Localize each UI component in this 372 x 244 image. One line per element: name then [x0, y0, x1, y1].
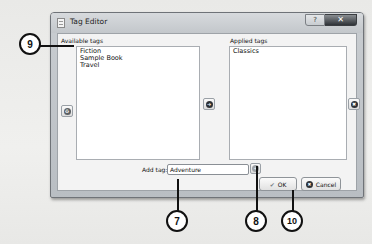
right-arrow-icon: ➔: [206, 101, 213, 108]
delete-tag-button[interactable]: ♻: [61, 105, 73, 117]
ok-label: OK: [278, 181, 287, 188]
callout-8-leader: [256, 166, 258, 213]
cancel-icon: ✖: [306, 181, 313, 188]
add-tag-label: Add tag:: [142, 166, 167, 173]
title-bar[interactable]: Tag Editor ? ✕: [51, 13, 363, 33]
recycle-icon: ♻: [64, 108, 71, 115]
applied-tags-label: Applied tags: [230, 37, 267, 44]
callout-7-leader: [177, 179, 179, 213]
add-tag-input[interactable]: Adventure: [167, 164, 249, 175]
callout-7: 7: [166, 210, 188, 232]
window-icon: [57, 18, 65, 28]
available-tags-list[interactable]: Fiction Sample Book Travel: [76, 46, 200, 160]
window-title: Tag Editor: [70, 17, 107, 26]
callout-9: 9: [19, 33, 41, 55]
close-button[interactable]: ✕: [325, 14, 357, 26]
callout-10: 10: [281, 210, 303, 232]
available-tags-label: Available tags: [61, 37, 103, 44]
list-item[interactable]: Travel: [77, 62, 199, 69]
checkmark-icon: ✔: [270, 181, 275, 188]
callout-8: 8: [245, 210, 267, 232]
applied-tags-list[interactable]: Classics: [229, 46, 347, 160]
tag-editor-window: Tag Editor ? ✕ Available tags Fiction Sa…: [50, 12, 364, 198]
apply-tag-button[interactable]: ➔: [203, 98, 215, 110]
dialog-body: Available tags Fiction Sample Book Trave…: [57, 33, 357, 191]
help-button[interactable]: ?: [305, 14, 325, 26]
list-item[interactable]: Classics: [230, 47, 346, 55]
remove-icon: ✖: [351, 101, 358, 108]
cancel-label: Cancel: [316, 181, 336, 188]
cancel-button[interactable]: ✖ Cancel: [301, 177, 341, 191]
ok-button[interactable]: ✔ OK: [259, 177, 297, 191]
unapply-tag-button[interactable]: ✖: [348, 98, 360, 110]
